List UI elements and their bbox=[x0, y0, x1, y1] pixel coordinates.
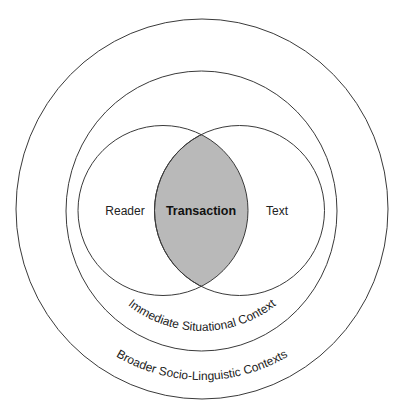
diagram-canvas: Reader Transaction Text Immediate Situat… bbox=[0, 0, 402, 415]
reader-label: Reader bbox=[105, 204, 144, 218]
broader-context-label: Broader Socio-Linguistic Contexts bbox=[114, 347, 289, 383]
immediate-context-label: Immediate Situational Context bbox=[126, 296, 279, 334]
text-label: Text bbox=[266, 204, 289, 218]
venn-diagram: Reader Transaction Text Immediate Situat… bbox=[0, 0, 402, 415]
transaction-label: Transaction bbox=[166, 204, 236, 218]
